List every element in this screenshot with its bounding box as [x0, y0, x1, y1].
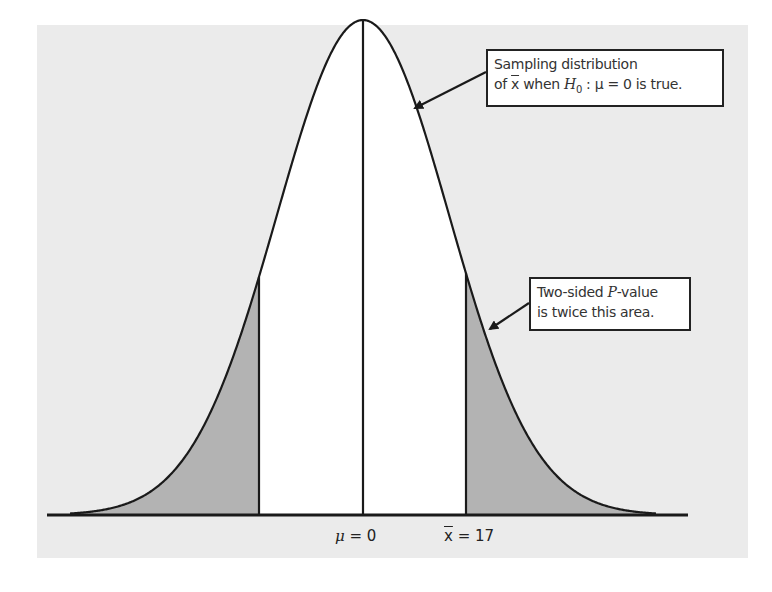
callout-line-1: Sampling distribution — [494, 54, 716, 74]
callout-line-1: Two-sided P-value — [537, 282, 683, 302]
callout-line-2: of x when H0 : μ = 0 is true. — [494, 74, 716, 100]
p-value-callout: Two-sided P-value is twice this area. — [529, 277, 691, 331]
callout-line-2: is twice this area. — [537, 302, 683, 322]
sampling-distribution-callout: Sampling distribution of x when H0 : μ =… — [486, 49, 724, 107]
h-symbol: H — [564, 76, 576, 92]
mu-label: μ = 0 — [335, 527, 376, 545]
p-symbol: P — [608, 284, 617, 300]
sampling-callout-arrow — [415, 72, 486, 108]
xbar-symbol: x — [511, 76, 519, 92]
xbar-label: x = 17 — [444, 527, 494, 545]
pvalue-callout-arrow — [490, 303, 529, 329]
